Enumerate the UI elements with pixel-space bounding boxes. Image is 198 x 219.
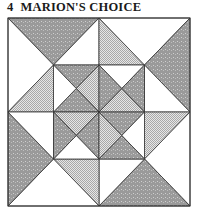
quilt-block-diagram (0, 0, 198, 219)
quilt-pieces (8, 18, 190, 206)
